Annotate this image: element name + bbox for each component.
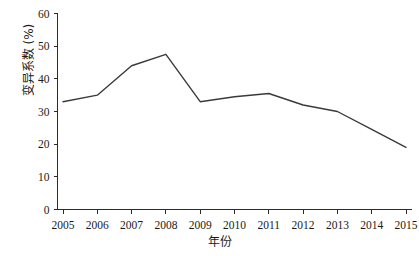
- y-tick-label: 20: [38, 138, 50, 150]
- x-axis-ticks: 2005200620072008200920102011201220132014…: [52, 210, 418, 231]
- y-tick-label: 60: [38, 8, 50, 20]
- data-series-line: [63, 54, 406, 147]
- chart-figure: 变异系数 (%) 年份 0102030405060 20052006200720…: [0, 0, 419, 256]
- y-axis-ticks: 0102030405060: [38, 8, 58, 216]
- y-tick-label: 40: [38, 73, 50, 85]
- x-tick-label: 2014: [360, 219, 383, 231]
- y-tick-label: 10: [38, 171, 50, 183]
- x-tick-label: 2010: [223, 219, 246, 231]
- y-tick-label: 0: [44, 204, 50, 216]
- x-tick-label: 2005: [52, 219, 75, 231]
- x-tick-label: 2013: [326, 219, 349, 231]
- x-tick-label: 2007: [120, 219, 143, 231]
- x-tick-label: 2009: [189, 219, 212, 231]
- chart-plot-area: 0102030405060 20052006200720082009201020…: [0, 0, 419, 256]
- x-tick-label: 2006: [86, 219, 109, 231]
- x-tick-label: 2015: [395, 219, 418, 231]
- y-tick-label: 50: [38, 40, 50, 52]
- x-tick-label: 2012: [292, 219, 315, 231]
- x-tick-label: 2011: [258, 219, 281, 231]
- y-tick-label: 30: [38, 106, 50, 118]
- x-tick-label: 2008: [154, 219, 177, 231]
